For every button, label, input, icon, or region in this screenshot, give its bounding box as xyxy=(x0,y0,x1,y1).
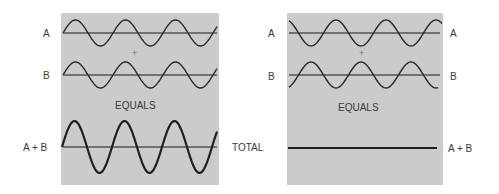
left-equals-label: EQUALS xyxy=(115,100,156,111)
right-label-b-left: B xyxy=(268,71,275,82)
right-sum-label: A + B xyxy=(448,143,473,154)
right-label-a-right: A xyxy=(450,28,457,39)
left-sum-label: A + B xyxy=(23,142,48,153)
interference-diagram: A B + EQUALS A + B TOTAL A A B B + EQUAL… xyxy=(0,0,499,194)
right-plus-sign: + xyxy=(359,48,364,58)
right-equals-label: EQUALS xyxy=(338,102,379,113)
left-label-b: B xyxy=(43,70,50,81)
right-label-b-right: B xyxy=(450,71,457,82)
right-label-a-left: A xyxy=(268,28,275,39)
left-label-a: A xyxy=(43,28,50,39)
total-label: TOTAL xyxy=(232,142,264,153)
left-plus-sign: + xyxy=(132,48,137,58)
